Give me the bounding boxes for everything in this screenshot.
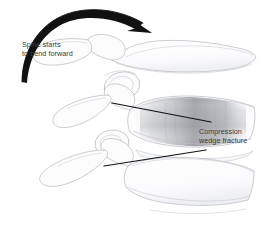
compression-fracture-label: Compression wedge fracture: [199, 127, 247, 145]
compression-fracture-label-line1: Compression: [199, 127, 247, 136]
leader-line-upper: [112, 103, 211, 122]
spine-bend-label-line2: to bend forward: [22, 49, 73, 58]
compression-fracture-label-line2: wedge fracture: [199, 136, 247, 145]
annotation-layer: [0, 0, 260, 236]
compression-fracture-figure: Spine starts to bend forward Compression…: [0, 0, 260, 236]
spine-bend-label-line1: Spine starts: [22, 40, 73, 49]
spine-bend-label: Spine starts to bend forward: [22, 40, 73, 58]
leader-line-lower: [104, 150, 206, 166]
